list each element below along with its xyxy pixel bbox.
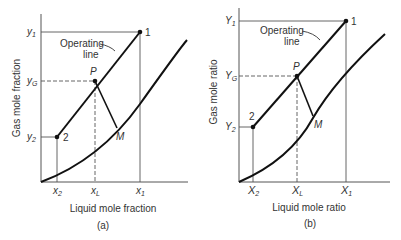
XL-label-b: XL [291, 184, 303, 197]
operating-label-b-1: Operating [260, 25, 304, 36]
X1-label-b: X1 [340, 184, 352, 197]
tie-line-b [297, 76, 313, 116]
y2-label-a: y2 [26, 131, 36, 143]
operating-label-a-1: Operating [60, 38, 104, 49]
caption-a: (a) [97, 220, 109, 231]
Y1-label-b: Y1 [225, 15, 236, 27]
panel-a: Operating line 1 P 2 M y1 yG y2 x2 xL x1… [11, 14, 188, 231]
tie-line-a [95, 81, 117, 128]
label-point-2-a: 2 [63, 132, 69, 143]
ylabel-a: Gas mole fraction [11, 59, 22, 137]
point-P-a [93, 79, 98, 84]
absorption-diagrams: Operating line 1 P 2 M y1 yG y2 x2 xL x1… [0, 0, 401, 240]
y1-label-a: y1 [26, 26, 36, 38]
equilibrium-curve-a [41, 40, 187, 182]
xL-label-a: xL [90, 185, 100, 197]
point-2-b [251, 125, 256, 130]
label-point-M-a: M [116, 131, 125, 142]
label-point-1-b: 1 [351, 16, 357, 27]
point-P-b [295, 74, 300, 79]
label-point-1-a: 1 [145, 27, 151, 38]
xlabel-a: Liquid mole fraction [70, 203, 157, 214]
Y2-label-b: Y2 [225, 121, 236, 133]
label-point-M-b: M [314, 119, 323, 130]
x2-label-a: x2 [52, 185, 62, 197]
ylabel-b: Gas mole ratio [208, 59, 219, 124]
caption-b: (b) [304, 218, 316, 229]
operating-label-a-2: line [83, 49, 99, 60]
xlabel-b: Liquid mole ratio [272, 202, 346, 213]
point-1-a [138, 30, 143, 35]
panel-b: Operating line 1 P 2 M Y1 YG Y2 X2 XL X1… [208, 8, 390, 229]
equilibrium-curve-b [239, 34, 385, 182]
X2-label-b: X2 [247, 184, 259, 197]
label-point-P-a: P [90, 66, 97, 77]
operating-label-b-2: line [284, 36, 300, 47]
label-point-2-b: 2 [249, 111, 255, 122]
x1-label-a: x1 [135, 185, 145, 197]
label-point-P-b: P [293, 61, 300, 72]
YG-label-b: YG [225, 70, 238, 82]
yG-label-a: yG [26, 75, 38, 87]
point-1-b [344, 19, 349, 24]
operating-label-arrow-b [302, 31, 320, 40]
point-2-a [55, 135, 60, 140]
